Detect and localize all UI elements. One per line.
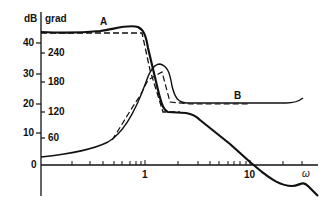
grad-tick-180: 180: [48, 77, 65, 87]
grad-tick-120: 120: [48, 107, 65, 117]
unit-grad-label: grad: [45, 14, 67, 24]
unit-db-label: dB: [24, 14, 37, 24]
curve-b-asymptote: [112, 72, 250, 140]
grad-tick-240: 240: [48, 48, 65, 58]
db-tick-30: 30: [23, 69, 34, 79]
db-tick-0: 0: [31, 160, 37, 170]
db-tick-10: 10: [23, 128, 34, 138]
bode-plot: [0, 0, 334, 208]
db-tick-20: 20: [23, 99, 34, 109]
curve-a: [41, 26, 318, 196]
curve-a-asymptote: [41, 33, 180, 112]
x-ticks: [72, 160, 302, 165]
x-axis-label-omega: ω: [302, 169, 310, 179]
x-tick-1: 1: [142, 170, 148, 180]
db-ticks: [36, 43, 41, 133]
db-tick-40: 40: [23, 38, 34, 48]
grad-tick-60: 60: [48, 133, 59, 143]
curve-a-label: A: [100, 17, 107, 27]
curve-b: [41, 64, 303, 157]
x-tick-10: 10: [244, 170, 255, 180]
curve-b-label: B: [234, 91, 241, 101]
